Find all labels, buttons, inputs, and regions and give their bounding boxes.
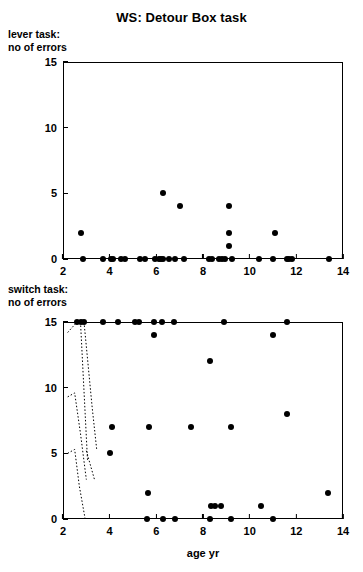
data-point: [81, 319, 87, 325]
switch-task-plot: 051015 2468101214 age yr: [63, 322, 343, 519]
x-tick-8: 8: [200, 259, 206, 277]
data-point: [78, 230, 84, 236]
plot-frame-upper: [63, 62, 343, 259]
x-tick-mark: [342, 514, 343, 519]
lower-panel-caption: switch task: no of errors: [8, 283, 68, 309]
trace-2: [81, 322, 88, 460]
x-tick-mark: [296, 254, 297, 259]
data-point: [145, 490, 151, 496]
y-tick-15: 15: [45, 56, 63, 68]
x-tick-12: 12: [290, 519, 302, 537]
x-tick-14: 14: [337, 259, 349, 277]
trace-6: [86, 451, 94, 480]
y-tick-mark: [63, 453, 68, 454]
data-point: [228, 424, 234, 430]
data-point: [270, 516, 276, 522]
data-point: [258, 503, 264, 509]
y-tick-15: 15: [45, 316, 63, 328]
x-tick-14: 14: [337, 519, 349, 537]
data-point: [270, 332, 276, 338]
data-point: [226, 243, 232, 249]
x-tick-mark: [156, 514, 157, 519]
data-point: [325, 490, 331, 496]
data-point: [107, 450, 113, 456]
data-point: [207, 516, 213, 522]
data-point: [209, 256, 215, 262]
data-point: [207, 358, 213, 364]
data-point: [146, 424, 152, 430]
data-point: [109, 424, 115, 430]
x-tick-2: 2: [60, 519, 66, 537]
x-tick-10: 10: [244, 519, 256, 537]
data-point: [229, 256, 235, 262]
data-point: [228, 516, 234, 522]
data-point: [80, 256, 86, 262]
data-point: [159, 319, 165, 325]
x-tick-mark: [109, 514, 110, 519]
data-point: [270, 256, 276, 262]
data-point: [136, 319, 142, 325]
data-point: [122, 256, 128, 262]
x-tick-6: 6: [153, 519, 159, 537]
y-tick-mark: [63, 61, 68, 62]
x-tick-mark: [249, 514, 250, 519]
data-point: [226, 203, 232, 209]
data-point: [226, 230, 232, 236]
x-tick-mark: [202, 514, 203, 519]
x-tick-mark: [202, 254, 203, 259]
x-tick-8: 8: [200, 519, 206, 537]
upper-panel-caption: lever task: no of errors: [8, 28, 67, 54]
data-point: [284, 411, 290, 417]
y-tick-5: 5: [51, 447, 63, 459]
data-point: [100, 256, 106, 262]
data-point: [256, 256, 262, 262]
data-point: [284, 319, 290, 325]
data-point: [110, 256, 116, 262]
data-point: [218, 503, 224, 509]
data-point: [188, 424, 194, 430]
x-tick-mark: [296, 514, 297, 519]
data-point: [160, 190, 166, 196]
trace-5: [68, 449, 86, 519]
y-tick-10: 10: [45, 382, 63, 394]
data-point: [151, 332, 157, 338]
x-tick-mark: [342, 254, 343, 259]
x-tick-mark: [62, 514, 63, 519]
data-point: [144, 516, 150, 522]
data-point: [151, 319, 157, 325]
y-tick-mark: [63, 127, 68, 128]
y-tick-10: 10: [45, 122, 63, 134]
data-point: [160, 516, 166, 522]
lever-task-plot: 051015 2468101214: [63, 62, 343, 259]
data-point: [172, 516, 178, 522]
y-tick-mark: [63, 321, 68, 322]
data-point: [171, 319, 177, 325]
y-tick-mark: [63, 193, 68, 194]
data-point: [142, 256, 148, 262]
x-tick-mark: [249, 254, 250, 259]
x-axis-label: age yr: [63, 547, 343, 559]
data-point: [272, 230, 278, 236]
x-tick-2: 2: [60, 259, 66, 277]
data-point: [221, 319, 227, 325]
chart-title: WS: Detour Box task: [0, 10, 363, 25]
data-point: [177, 203, 183, 209]
dotted-trace-lines: [63, 322, 343, 519]
data-point: [100, 319, 106, 325]
y-tick-5: 5: [51, 187, 63, 199]
x-tick-10: 10: [244, 259, 256, 277]
data-point: [326, 256, 332, 262]
y-tick-mark: [63, 387, 68, 388]
data-point: [181, 256, 187, 262]
data-point: [172, 256, 178, 262]
x-tick-mark: [62, 254, 63, 259]
data-point: [222, 256, 228, 262]
x-tick-4: 4: [107, 519, 113, 537]
data-point: [115, 319, 121, 325]
data-point: [289, 256, 295, 262]
